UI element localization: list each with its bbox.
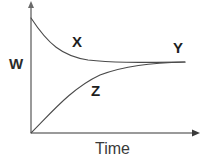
x-axis-arrowhead-icon <box>192 130 200 137</box>
diagram-canvas: W Time X Z Y <box>0 0 204 161</box>
curve-x-path <box>31 18 185 62</box>
curve-label-y: Y <box>173 40 183 55</box>
curve-z-path <box>31 62 185 133</box>
x-axis-label: Time <box>95 141 130 157</box>
plot-svg <box>0 0 204 161</box>
y-axis-arrowhead-icon <box>28 1 34 8</box>
curve-label-x: X <box>72 34 82 49</box>
curve-label-z: Z <box>91 83 100 98</box>
y-axis-label: W <box>9 56 23 71</box>
